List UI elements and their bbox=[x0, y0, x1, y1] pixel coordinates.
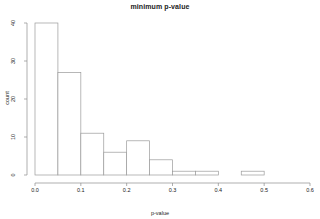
plot-canvas bbox=[0, 0, 320, 219]
x-tick-label: 0.5 bbox=[260, 187, 268, 193]
x-tick-label: 0.6 bbox=[306, 187, 314, 193]
x-tick-label: 0.0 bbox=[31, 187, 39, 193]
bar bbox=[173, 171, 196, 175]
bar bbox=[195, 171, 218, 175]
y-tick-label: 40 bbox=[10, 13, 16, 33]
bar bbox=[35, 23, 58, 175]
x-axis-label: p-value bbox=[0, 210, 320, 216]
x-tick-label: 0.3 bbox=[169, 187, 177, 193]
bar-series bbox=[35, 23, 264, 175]
bar bbox=[150, 160, 173, 175]
bar bbox=[81, 133, 104, 175]
y-tick-label: 0 bbox=[10, 165, 16, 185]
y-tick-label: 20 bbox=[10, 89, 16, 109]
bar bbox=[58, 72, 81, 175]
histogram-plot: minimum p-value count p-value 0.00.10.20… bbox=[0, 0, 320, 219]
y-tick-label: 10 bbox=[10, 127, 16, 147]
x-tick-label: 0.4 bbox=[215, 187, 223, 193]
x-tick-label: 0.1 bbox=[77, 187, 85, 193]
bar bbox=[104, 152, 127, 175]
x-tick-label: 0.2 bbox=[123, 187, 131, 193]
bar bbox=[241, 171, 264, 175]
bar bbox=[127, 141, 150, 175]
y-tick-label: 30 bbox=[10, 51, 16, 71]
